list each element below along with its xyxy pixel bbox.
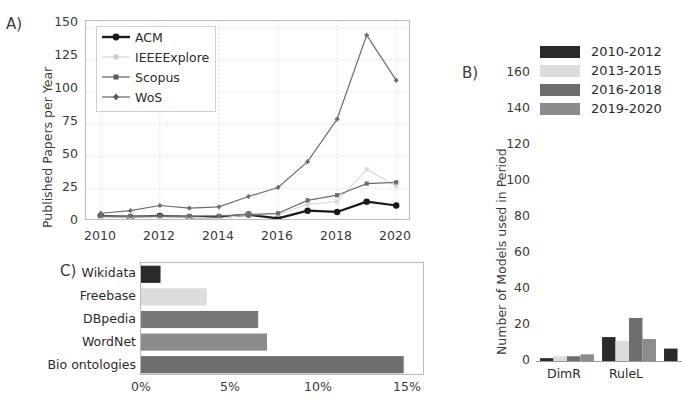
panel-b-ytick-80: 80 [502, 208, 530, 223]
panel-a-xtick-2018: 2018 [318, 228, 354, 243]
panel-b-ytick-60: 60 [502, 244, 530, 259]
panel-c-ytick-freebase: Freebase [14, 288, 136, 303]
panel-a-letter: A) [6, 15, 22, 33]
legend-item-2016-2018[interactable]: 2016-2018 [540, 80, 662, 99]
panel-a-ytick-50: 50 [50, 146, 78, 161]
legend-item-2019-2020[interactable]: 2019-2020 [540, 99, 662, 118]
legend-marker-scopus [101, 71, 131, 83]
legend-label-scopus: Scopus [135, 70, 180, 85]
legend-item-ieeexplore[interactable]: IEEEExplore [97, 47, 215, 67]
panel-b-letter: B) [462, 64, 478, 82]
legend-swatch-2013-2015 [540, 65, 580, 77]
legend-swatch-2010-2012 [540, 46, 580, 58]
legend-label-2013-2015: 2013-2015 [591, 63, 662, 78]
panel-a-ytick-25: 25 [50, 179, 78, 194]
panel-c-xtick-10: 10% [301, 379, 335, 394]
legend-item-acm[interactable]: ACM [97, 27, 215, 47]
panel-c-xtick-15: 15% [390, 379, 424, 394]
legend-item-2010-2012[interactable]: 2010-2012 [540, 42, 662, 61]
legend-label-2010-2012: 2010-2012 [591, 44, 662, 59]
legend-marker-wos [101, 91, 131, 103]
panel-c-svg [141, 263, 424, 375]
panel-a-ytick-100: 100 [50, 80, 78, 95]
panel-c-ytick-bio-ontologies: Bio ontologies [14, 357, 136, 372]
panel-c-xtick-5: 5% [213, 379, 247, 394]
panel-c-ytick-wikidata: Wikidata [14, 265, 136, 280]
panel-b-xtick-dimr: DimR [536, 366, 592, 381]
legend-swatch-2016-2018 [540, 84, 580, 96]
panel-a-xtick-2010: 2010 [82, 228, 118, 243]
panel-b-ytick-0: 0 [502, 352, 530, 367]
panel-a-xtick-2014: 2014 [200, 228, 236, 243]
panel-b-xtick-rulel: RuleL [598, 366, 654, 381]
panel-b-ytick-160: 160 [502, 64, 530, 79]
legend-swatch-2019-2020 [540, 103, 580, 115]
panel-a-xtick-2012: 2012 [141, 228, 177, 243]
panel-a-ytick-150: 150 [50, 14, 78, 29]
panel-c-xtick-0: 0% [124, 379, 158, 394]
panel-b-ytick-40: 40 [502, 280, 530, 295]
panel-b-ytick-20: 20 [502, 316, 530, 331]
panel-a-ytick-125: 125 [50, 47, 78, 62]
legend-item-wos[interactable]: WoS [97, 87, 215, 107]
panel-b-ytick-140: 140 [502, 100, 530, 115]
legend-label-wos: WoS [135, 90, 162, 105]
panel-b-legend: 2010-2012 2013-2015 2016-2018 2019-2020 [540, 42, 662, 118]
legend-label-acm: ACM [135, 30, 163, 45]
panel-a-ytick-0: 0 [50, 212, 78, 227]
legend-label-ieeexplore: IEEEExplore [135, 50, 209, 65]
panel-c-plot-area [140, 262, 424, 375]
panel-c-ytick-dbpedia: DBpedia [14, 311, 136, 326]
panel-c-ytick-wordnet: WordNet [14, 334, 136, 349]
panel-a-ytick-75: 75 [50, 113, 78, 128]
legend-item-scopus[interactable]: Scopus [97, 67, 215, 87]
legend-label-2016-2018: 2016-2018 [591, 82, 662, 97]
legend-item-2013-2015[interactable]: 2013-2015 [540, 61, 662, 80]
panel-b-ytick-120: 120 [502, 136, 530, 151]
legend-marker-ieeexplore [101, 51, 131, 63]
panel-a-xtick-2016: 2016 [259, 228, 295, 243]
panel-a-legend: ACM IEEEExplore Scopus WoS [96, 26, 216, 112]
panel-b-ytick-100: 100 [502, 172, 530, 187]
legend-marker-acm [101, 31, 131, 43]
legend-label-2019-2020: 2019-2020 [591, 101, 662, 116]
panel-a-xtick-2020: 2020 [377, 228, 413, 243]
